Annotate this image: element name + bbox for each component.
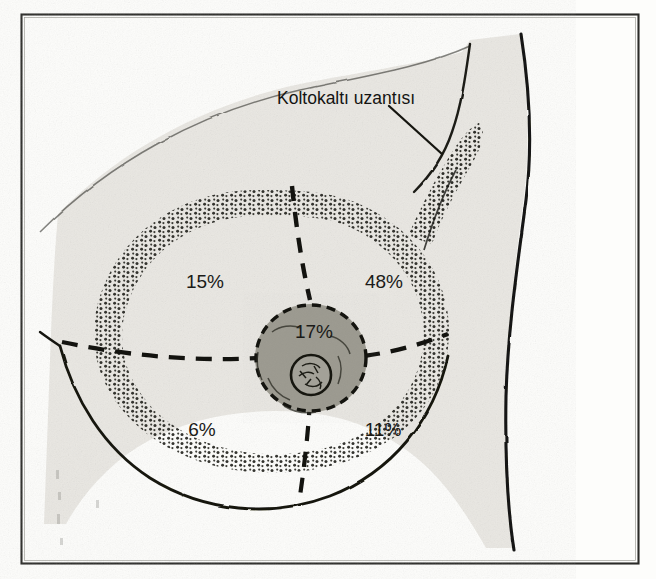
label-central-areola-percent: 17% <box>295 321 333 342</box>
axillary-tail <box>390 110 510 260</box>
axillary-tail-label: Koltokaltı uzantısı <box>277 88 415 108</box>
label-lower-outer-percent: 6% <box>188 419 216 440</box>
label-upper-outer-percent: 15% <box>186 271 224 292</box>
scan-haze <box>40 456 160 556</box>
figure-container: Koltokaltı uzantısı 15% 48% 17% 6% 11% <box>0 0 656 579</box>
label-upper-inner-percent: 48% <box>365 271 403 292</box>
nipple-outline <box>291 355 331 395</box>
label-lower-inner-percent: 11% <box>365 419 402 440</box>
breast-quadrant-diagram: Koltokaltı uzantısı 15% 48% 17% 6% 11% <box>0 0 656 579</box>
